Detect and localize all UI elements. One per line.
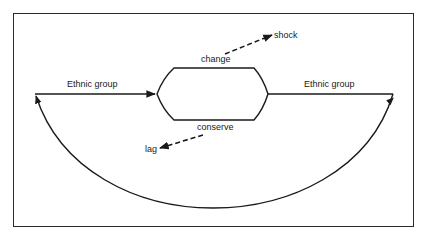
left-ethnic-group-label: Ethnic group xyxy=(67,80,118,89)
shock-label: shock xyxy=(274,31,298,40)
hexagon-shape xyxy=(157,68,268,120)
shock-dashed-arrow xyxy=(225,35,272,54)
lag-label: lag xyxy=(145,145,157,154)
conserve-label: conserve xyxy=(197,123,234,132)
right-ethnic-group-label: Ethnic group xyxy=(304,80,355,89)
lag-dashed-arrow xyxy=(160,135,203,148)
diagram-canvas xyxy=(0,0,427,238)
change-label: change xyxy=(201,55,231,64)
return-arc xyxy=(36,94,393,208)
arc-arrowhead-icon xyxy=(386,96,394,105)
